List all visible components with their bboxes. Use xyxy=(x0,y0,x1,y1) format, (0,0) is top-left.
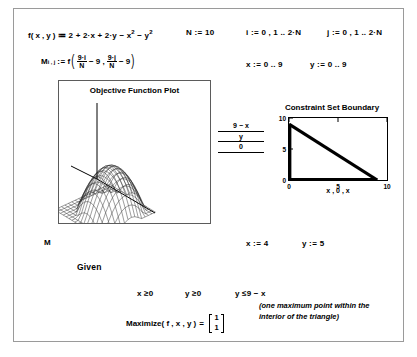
definition-x-range-value: 0 .. 9 xyxy=(264,60,283,69)
matrix-term1-tail: − 9 , xyxy=(89,57,105,66)
guess-x-assign: := xyxy=(253,239,261,248)
fraction-denominator-2: N xyxy=(107,61,117,69)
vector-value-0: 1 xyxy=(214,313,218,323)
guess-y-label: y xyxy=(302,239,307,248)
y-trace-label-0: 9 − x xyxy=(218,121,264,132)
matrix-assign: := xyxy=(57,57,65,66)
guess-y-value: 5 xyxy=(320,239,325,248)
matrix-func: f xyxy=(67,57,70,66)
y-trace-label-2: 0 xyxy=(218,142,264,153)
vector-values: 1 1 xyxy=(212,313,221,333)
surface-mesh xyxy=(59,165,155,223)
objective-fn-text-2: − y xyxy=(135,31,149,40)
objective-fn-exp-y: 2 xyxy=(149,29,153,35)
result-vector: 1 1 xyxy=(209,313,224,333)
guess-x-value: 4 xyxy=(264,239,269,248)
fraction-9j-over-N: 9·j N xyxy=(107,54,117,70)
fraction-numerator-1: 9·i xyxy=(77,54,87,61)
y-trace-label-1: y xyxy=(218,132,264,143)
constraint-plot-y-axis-label: 9 − x y 0 xyxy=(218,121,264,153)
objective-function-definition[interactable]: f( x , y ) ≔ 2 + 2·x + 2·y − x2 − y2 xyxy=(28,29,153,40)
guess-y-assign: := xyxy=(309,239,317,248)
definition-x-range-label: x xyxy=(246,60,251,69)
constraint-plot[interactable]: Constraint Set Boundary 9 − x y 0 10 5 0… xyxy=(270,115,394,199)
definition-y-range-value: 0 .. 9 xyxy=(328,60,347,69)
worksheet-page: f( x , y ) ≔ 2 + 2·x + 2·y − x2 − y2 N :… xyxy=(13,8,404,342)
definition-j-assign: := xyxy=(332,28,340,37)
y-tick-label-0: 0 xyxy=(282,177,286,184)
fraction-numerator-2: 9·j xyxy=(107,54,117,61)
fraction-denominator-1: N xyxy=(77,61,87,69)
constraint-plot-frame: 10 5 0 0 5 10 xyxy=(288,117,388,181)
constraint-plot-x-axis-label: x , 0 , x xyxy=(288,187,388,194)
definition-N[interactable]: N := 10 xyxy=(186,29,214,37)
matrix-term2-tail: − 9 xyxy=(119,57,130,66)
maximize-expression[interactable]: Maximize ( f , x , y ) = 1 1 xyxy=(126,313,224,333)
maximum-point-note: (one maximum point within the interior o… xyxy=(259,301,384,323)
constraint-y-le-9-minus-x[interactable]: y ≤9 − x xyxy=(235,290,266,298)
guess-x-label: x xyxy=(246,239,251,248)
vector-bracket-right xyxy=(221,314,224,333)
surface-plot-title: Objective Function Plot xyxy=(59,86,210,95)
maximize-fn-args: ( f , x , y ) xyxy=(162,319,197,328)
constraint-y-nonneg[interactable]: y ≥0 xyxy=(185,290,201,298)
definition-i[interactable]: i := 0 , 1 .. 2·N xyxy=(246,29,301,37)
surface-plot-canvas xyxy=(59,95,212,223)
definition-j-label: j xyxy=(327,28,329,37)
definition-N-value: 10 xyxy=(205,28,214,37)
definition-i-value: 0 , 1 .. 2·N xyxy=(261,28,301,37)
guess-value-x[interactable]: x := 4 xyxy=(246,240,268,248)
matrix-definition[interactable]: Mi , j := f ( 9·i N − 9 , 9·j N − 9 ) xyxy=(41,54,136,70)
objective-fn-text: f( x , y ) ≔ 2 + 2·x + 2·y − x xyxy=(28,31,131,40)
definition-y-range-label: y xyxy=(310,60,315,69)
matrix-reference[interactable]: M xyxy=(44,239,51,247)
matrix-symbol: M xyxy=(41,57,48,66)
constraint-plot-title: Constraint Set Boundary xyxy=(270,103,394,112)
maximize-fn-name: Maximize xyxy=(126,319,162,328)
constraint-traces xyxy=(289,118,387,180)
definition-y-range-assign: := xyxy=(317,60,325,69)
guess-value-y[interactable]: y := 5 xyxy=(302,240,324,248)
constraint-x-nonneg[interactable]: x ≥0 xyxy=(137,290,153,298)
trace-9-minus-x xyxy=(289,124,377,180)
given-keyword[interactable]: Given xyxy=(77,263,102,272)
definition-x-range[interactable]: x := 0 .. 9 xyxy=(246,61,283,69)
fraction-9i-over-N: 9·i N xyxy=(77,54,87,70)
paren-open: ( xyxy=(71,54,74,68)
definition-x-range-assign: := xyxy=(253,60,261,69)
definition-N-label: N xyxy=(186,28,192,37)
definition-N-assign: := xyxy=(194,28,202,37)
definition-y-range[interactable]: y := 0 .. 9 xyxy=(310,61,347,69)
surface-plot[interactable]: Objective Function Plot xyxy=(58,80,211,224)
definition-i-assign: := xyxy=(251,28,259,37)
maximize-equals: = xyxy=(199,319,204,328)
vector-value-1: 1 xyxy=(214,323,218,333)
y-tick-label-5: 5 xyxy=(282,146,286,153)
paren-close: ) xyxy=(132,54,135,68)
matrix-subscript: i , j xyxy=(48,59,56,65)
y-tick-label-10: 10 xyxy=(279,115,286,122)
definition-i-label: i xyxy=(246,28,248,37)
definition-j[interactable]: j := 0 , 1 .. 2·N xyxy=(327,29,382,37)
definition-j-value: 0 , 1 .. 2·N xyxy=(342,28,382,37)
